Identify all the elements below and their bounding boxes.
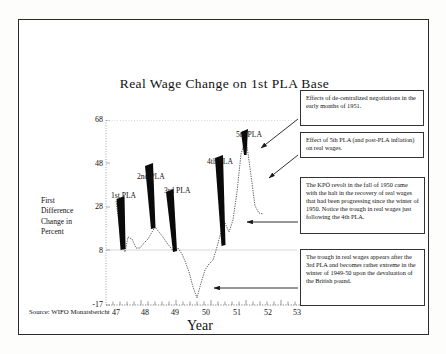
y-tick-68: 68 <box>77 115 103 124</box>
wage-change-line-chart <box>105 120 305 312</box>
x-tick-50: 50 <box>196 308 216 317</box>
y-axis-minor-ticks <box>106 120 110 305</box>
x-tick-48: 48 <box>135 308 155 317</box>
x-axis-title: Year <box>105 318 295 334</box>
pla-label-5: 5th PLA <box>236 130 262 139</box>
x-axis-minor-ticks <box>113 300 295 305</box>
y-tick-28: 28 <box>77 202 103 211</box>
chart-document-frame: Real Wage Change on 1st PLA Base First D… <box>18 19 429 335</box>
pla-marker-4 <box>215 155 226 246</box>
annotation-box-5th-pla-effect: Effect of 5th PLA (and post-PLA inflatio… <box>300 132 424 158</box>
screenshot-page: Real Wage Change on 1st PLA Base First D… <box>0 0 446 354</box>
pla-label-1: 1st PLA <box>111 191 136 200</box>
pla-label-3: 3rd PLA <box>164 186 190 195</box>
pla-marker-3 <box>166 189 177 252</box>
y-tick-8: 8 <box>77 246 103 255</box>
y-tick-48: 48 <box>77 159 103 168</box>
pla-label-4: 4th PLA <box>207 157 233 166</box>
x-tick-53: 53 <box>287 308 307 317</box>
x-tick-49: 49 <box>165 308 185 317</box>
pla-marker-1 <box>117 196 126 250</box>
y-axis-tick-labels: 68 48 28 8 -17 <box>73 120 103 305</box>
plot-area <box>105 120 295 305</box>
source-note: Source: WIFO Monatsbericht <box>29 308 110 315</box>
x-tick-52: 52 <box>258 308 278 317</box>
annotation-box-kpo-revolt: The KPÖ revolt in the fall of 1950 came … <box>300 177 425 234</box>
annotation-box-trough-devaluation: The trough in real wages appears after t… <box>300 249 425 306</box>
data-series-line <box>116 138 263 298</box>
x-tick-51: 51 <box>227 308 247 317</box>
annotation-box-decentralized-negotiations: Effects of de-centralized negotiations i… <box>300 90 424 126</box>
pla-label-2: 2nd PLA <box>137 172 165 181</box>
